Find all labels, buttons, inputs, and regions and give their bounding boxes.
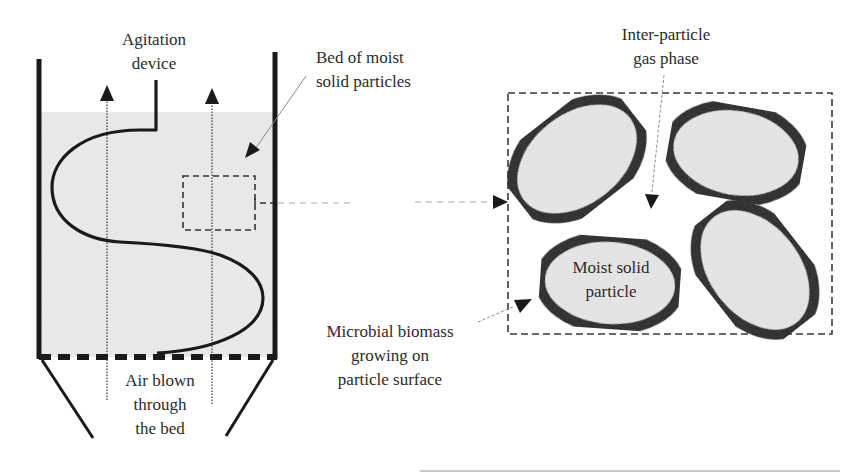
gas-phase-arrow-icon [645, 194, 659, 209]
particle-2 [661, 95, 811, 211]
label-air-blown: Air blown through the bed [110, 369, 210, 441]
biomass-leader [478, 306, 515, 322]
magnified-view [478, 75, 839, 358]
funnel-right [226, 360, 273, 436]
biomass-arrow-icon [514, 299, 532, 313]
label-gas-phase: Inter-particle gas phase [606, 23, 726, 71]
label-moist-solid-particle: Moist solid particle [555, 256, 667, 304]
funnel-left [42, 360, 93, 438]
particle-1 [489, 75, 664, 242]
label-microbial-biomass: Microbial biomass growing on particle su… [300, 320, 480, 392]
label-agitation-device: Agitation device [104, 28, 204, 76]
air-arrow-up-right-icon [205, 88, 219, 104]
air-arrow-up-left-icon [100, 85, 114, 101]
particle-4 [671, 182, 838, 357]
particle-bed [41, 112, 273, 357]
magnify-arrow-icon [493, 195, 508, 209]
label-bed-of-particles: Bed of moist solid particles [316, 46, 411, 94]
